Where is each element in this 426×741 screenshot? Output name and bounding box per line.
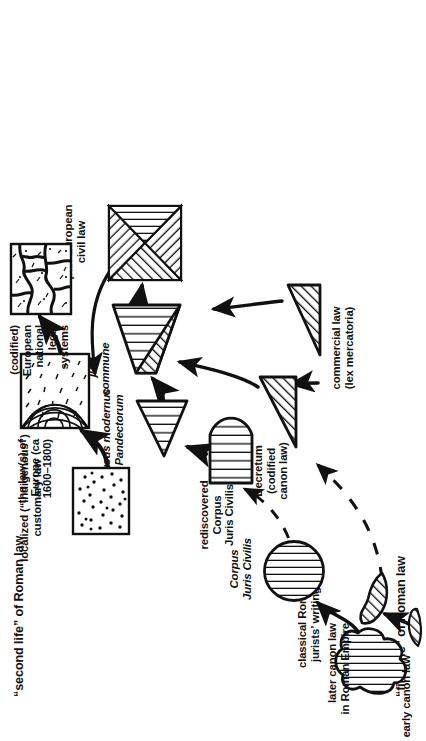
node-jus-commune xyxy=(110,301,184,377)
label-later-canon-law-roman-empire: later canon law in Roman Empire xyxy=(326,623,351,723)
edge-decretum-to-jus-commune xyxy=(180,362,258,387)
node-pan-european-civil-law xyxy=(106,203,184,283)
label-decretum-codified-canon-law: Decretum (codified canon law) xyxy=(252,431,290,511)
label-commercial-law-lex-mercatoria: commercial law (lex mercatoria) xyxy=(330,289,355,407)
label-codified-european-national-legal-systems: (codified) European national legal syste… xyxy=(8,325,71,429)
node-corpus-juris-civilis xyxy=(262,539,326,603)
node-later-canon-law-roman-empire xyxy=(356,569,392,629)
node-localized-indigenous-customary-law xyxy=(70,465,132,537)
node-codified-european-national-legal-systems xyxy=(8,241,74,317)
label-early-canon-law: early canon law xyxy=(400,655,413,741)
edge-commercial-to-pan-european xyxy=(214,301,282,309)
label-laws-of-europe: the law(s) of Europe (ca 1600–1800) xyxy=(16,439,54,531)
node-commercial-law-lex-mercatoria xyxy=(284,281,328,359)
node-usus-modernus-pandectorum xyxy=(134,397,190,459)
label-classical-roman-jurists-writings: classical Roman jurists’ writings xyxy=(296,581,321,731)
label-rediscovered-corpus-juris-civilis: rediscovered Corpus Juris Civilis xyxy=(198,473,236,557)
node-early-canon-law xyxy=(404,605,426,649)
edge-rediscovered-to-usus xyxy=(188,447,206,454)
edge-later-canon-to-decretum xyxy=(318,465,382,579)
